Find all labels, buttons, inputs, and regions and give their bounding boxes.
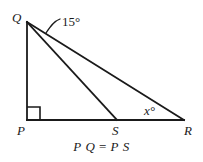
vertex-label-R: R: [184, 124, 192, 137]
triangle-diagram: [0, 0, 203, 162]
right-angle-icon: [27, 107, 40, 120]
caption-Q: Q: [85, 139, 95, 154]
caption-S: S: [123, 139, 130, 154]
geometry-figure: Q P S R 15° x° P Q = P S: [0, 0, 203, 162]
caption-P-right: P: [111, 139, 119, 154]
angle-label-15-degrees: 15°: [62, 15, 80, 28]
angle-leader-line-icon: [46, 19, 60, 33]
caption-equals: =: [99, 139, 107, 154]
segment-QR: [27, 22, 184, 120]
segment-QS: [27, 22, 117, 120]
angle-label-x-degrees: x°: [144, 104, 155, 117]
vertex-label-P: P: [17, 124, 25, 137]
vertex-label-S: S: [112, 124, 119, 137]
figure-caption: P Q = P S: [0, 139, 203, 155]
vertex-label-Q: Q: [12, 11, 21, 24]
caption-P-left: P: [73, 139, 81, 154]
